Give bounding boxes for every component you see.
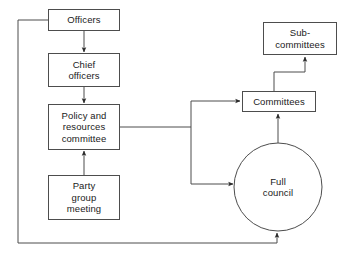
diagram-canvas: Officers Chief officers Policy and resou… <box>0 0 352 263</box>
edge-junction-to-full-council <box>191 127 233 184</box>
node-shape-sub-committees[interactable] <box>264 23 337 55</box>
node-shape-full-council[interactable] <box>234 143 322 231</box>
node-shape-officers[interactable] <box>49 10 120 31</box>
edge-committees-to-sub-committees <box>274 57 305 91</box>
node-shape-chief-officers[interactable] <box>49 54 120 87</box>
edge-junction-to-committees <box>191 101 240 127</box>
node-shape-committees[interactable] <box>243 92 316 112</box>
node-shape-policy-and-resources-committee[interactable] <box>49 105 120 150</box>
node-shape-party-group-meeting[interactable] <box>49 176 120 220</box>
diagram-graphics-layer <box>0 0 352 263</box>
